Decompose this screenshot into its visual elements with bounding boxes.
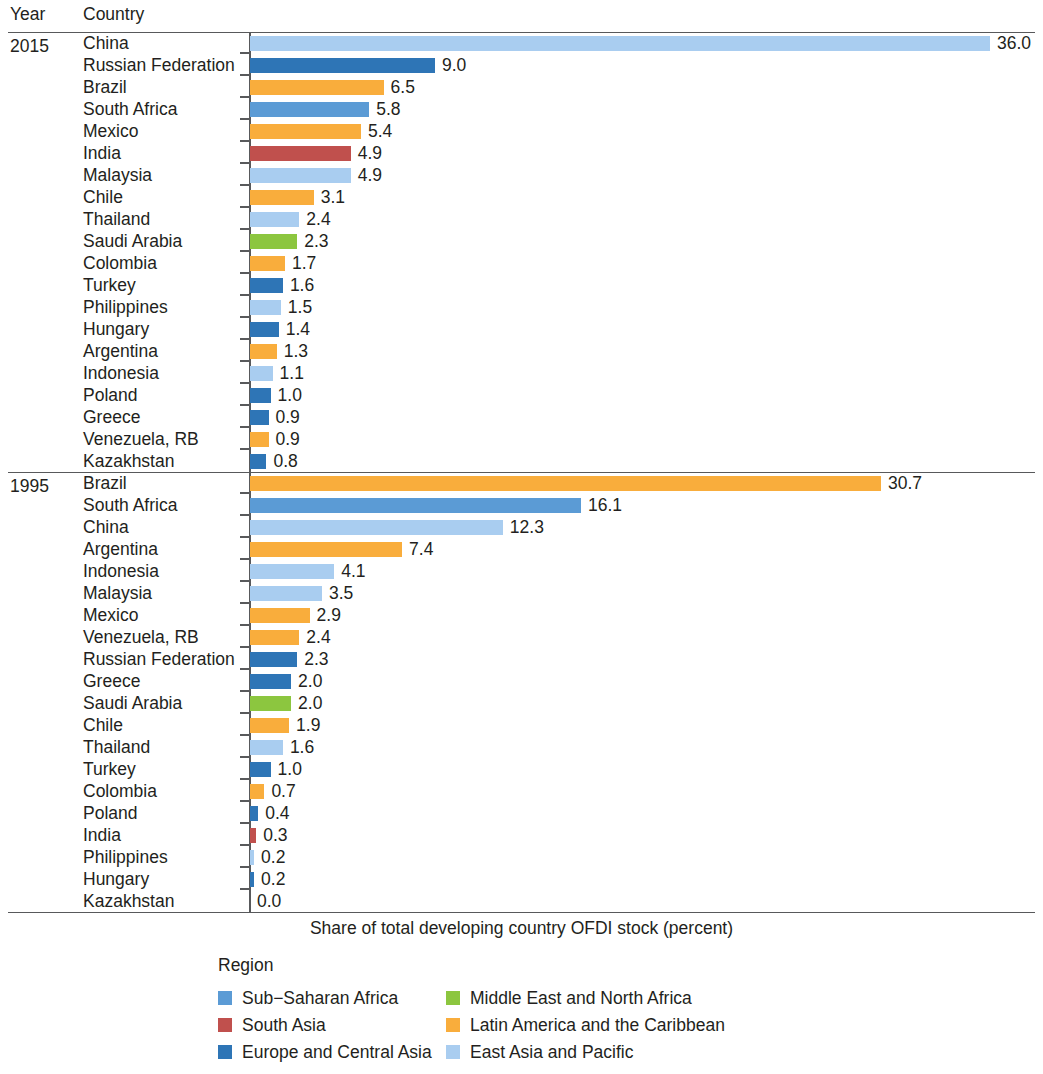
row-country-label: Greece <box>83 408 140 426</box>
bar-value-label: 3.5 <box>329 584 353 602</box>
bar-value-label: 2.9 <box>317 606 341 624</box>
bar <box>250 872 254 887</box>
legend-swatch-icon <box>446 1018 460 1032</box>
row-country-label: China <box>83 34 129 52</box>
table-row: China36.0 <box>0 32 1043 54</box>
bar <box>250 762 271 777</box>
row-country-label: Chile <box>83 188 123 206</box>
table-row: Chile3.1 <box>0 186 1043 208</box>
table-row: South Africa5.8 <box>0 98 1043 120</box>
bar-value-label: 2.4 <box>306 210 330 228</box>
legend-item-label: East Asia and Pacific <box>470 1043 633 1061</box>
bar-value-label: 5.4 <box>368 122 392 140</box>
table-row: Russian Federation9.0 <box>0 54 1043 76</box>
row-country-label: Philippines <box>83 298 168 316</box>
bar-value-label: 3.1 <box>321 188 345 206</box>
bar-value-label: 30.7 <box>888 474 922 492</box>
bar <box>250 520 503 535</box>
table-row: Indonesia1.1 <box>0 362 1043 384</box>
row-country-label: Venezuela, RB <box>83 430 199 448</box>
table-row: Poland1.0 <box>0 384 1043 406</box>
bar <box>250 674 291 689</box>
bar-value-label: 0.4 <box>265 804 289 822</box>
legend-swatch-icon <box>218 1018 232 1032</box>
table-row: Kazakhstan0.0 <box>0 890 1043 912</box>
table-row: Kazakhstan0.8 <box>0 450 1043 472</box>
row-country-label: Brazil <box>83 78 127 96</box>
bar <box>250 498 581 513</box>
table-row: Mexico2.9 <box>0 604 1043 626</box>
row-country-label: Venezuela, RB <box>83 628 199 646</box>
legend-item[interactable]: Sub−Saharan Africa <box>218 989 446 1007</box>
legend-item[interactable]: Europe and Central Asia <box>218 1043 446 1061</box>
table-row: Venezuela, RB2.4 <box>0 626 1043 648</box>
bar <box>250 564 334 579</box>
legend-swatch-icon <box>218 1045 232 1059</box>
bar-value-label: 2.0 <box>298 694 322 712</box>
row-country-label: Poland <box>83 804 138 822</box>
bar-value-label: 1.9 <box>296 716 320 734</box>
table-row: Chile1.9 <box>0 714 1043 736</box>
bar <box>250 586 322 601</box>
bar <box>250 806 258 821</box>
bar-value-label: 6.5 <box>391 78 415 96</box>
bar-value-label: 1.0 <box>278 386 302 404</box>
bar <box>250 58 435 73</box>
legend-item[interactable]: Middle East and North Africa <box>446 989 858 1007</box>
table-row: Mexico5.4 <box>0 120 1043 142</box>
table-row: Colombia0.7 <box>0 780 1043 802</box>
legend: Region Sub−Saharan AfricaMiddle East and… <box>218 955 858 1065</box>
legend-item[interactable]: South Asia <box>218 1016 446 1034</box>
bar-value-label: 2.4 <box>306 628 330 646</box>
bar <box>250 718 289 733</box>
row-country-label: Malaysia <box>83 584 152 602</box>
row-country-label: Thailand <box>83 210 150 228</box>
row-country-label: Thailand <box>83 738 150 756</box>
table-row: Greece2.0 <box>0 670 1043 692</box>
legend-item[interactable]: Latin America and the Caribbean <box>446 1016 858 1034</box>
table-row: Russian Federation2.3 <box>0 648 1043 670</box>
bar <box>250 234 297 249</box>
bar <box>250 278 283 293</box>
row-country-label: Poland <box>83 386 138 404</box>
bar <box>250 740 283 755</box>
legend-swatch-icon <box>446 991 460 1005</box>
table-row: Brazil6.5 <box>0 76 1043 98</box>
bar <box>250 388 271 403</box>
legend-item[interactable]: East Asia and Pacific <box>446 1043 858 1061</box>
bar-value-label: 12.3 <box>510 518 544 536</box>
row-country-label: Greece <box>83 672 140 690</box>
bar <box>250 168 351 183</box>
rule-bottom <box>8 912 1035 913</box>
row-country-label: Chile <box>83 716 123 734</box>
table-row: Malaysia4.9 <box>0 164 1043 186</box>
bar-value-label: 0.8 <box>273 452 297 470</box>
row-country-label: China <box>83 518 129 536</box>
bar-value-label: 2.3 <box>304 232 328 250</box>
bar-value-label: 2.3 <box>304 650 328 668</box>
bar <box>250 146 351 161</box>
legend-swatch-icon <box>446 1045 460 1059</box>
table-row: Indonesia4.1 <box>0 560 1043 582</box>
table-row: Venezuela, RB0.9 <box>0 428 1043 450</box>
row-country-label: Hungary <box>83 870 149 888</box>
table-row: South Africa16.1 <box>0 494 1043 516</box>
row-country-label: Colombia <box>83 782 157 800</box>
table-row: Philippines0.2 <box>0 846 1043 868</box>
table-row: China12.3 <box>0 516 1043 538</box>
bar-value-label: 1.4 <box>286 320 310 338</box>
x-axis-label: Share of total developing country OFDI s… <box>0 918 1043 938</box>
bar <box>250 828 256 843</box>
table-row: Brazil30.7 <box>0 472 1043 494</box>
table-row: India4.9 <box>0 142 1043 164</box>
row-country-label: Russian Federation <box>83 56 235 74</box>
bar <box>250 80 384 95</box>
bar <box>250 300 281 315</box>
bar-value-label: 1.7 <box>292 254 316 272</box>
bar-value-label: 9.0 <box>442 56 466 74</box>
table-row: Thailand2.4 <box>0 208 1043 230</box>
bar-value-label: 2.0 <box>298 672 322 690</box>
table-row: Poland0.4 <box>0 802 1043 824</box>
legend-item-label: Latin America and the Caribbean <box>470 1016 725 1034</box>
bar <box>250 850 254 865</box>
